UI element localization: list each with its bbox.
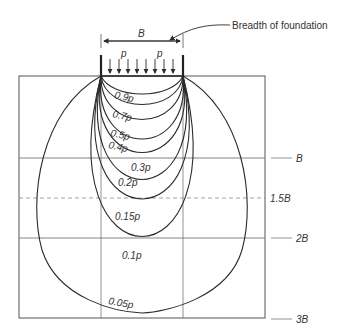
bulb-0.7p [101,76,183,105]
bulb-label-0.9p: 0.9p [114,89,136,104]
uniform-load-arrows [110,59,173,73]
width-label-B: B [138,28,145,39]
callout-arrow [170,25,230,40]
depth-label-3B: 3B [296,314,309,325]
callout-breadth-of-foundation: Breadth of foundation [232,20,328,31]
bulb-label-0.1p: 0.1p [122,250,142,261]
bulb-label-0.3p: 0.3p [131,162,151,173]
bulb-label-0.7p: 0.7p [112,108,134,123]
depth-label-1.5B: 1.5B [270,193,291,204]
load-label-left: p [120,48,127,59]
bulb-0.9p [101,76,183,94]
depth-label-B: B [296,153,303,164]
bulb-0.05p [37,76,248,313]
depth-label-2B: 2B [295,233,309,244]
soil-frame [19,76,265,318]
bulb-label-0.2p: 0.2p [118,177,138,188]
bulb-label-0.15p: 0.15p [115,211,140,222]
stress-bulb-diagram: B 1.5B 2B 3B 0.9p 0.7p 0.5p 0.4p 0.3p 0.… [0,0,337,334]
pressure-bulbs [37,76,248,313]
strip-foundation [101,55,183,77]
load-label-right: p [156,48,163,59]
